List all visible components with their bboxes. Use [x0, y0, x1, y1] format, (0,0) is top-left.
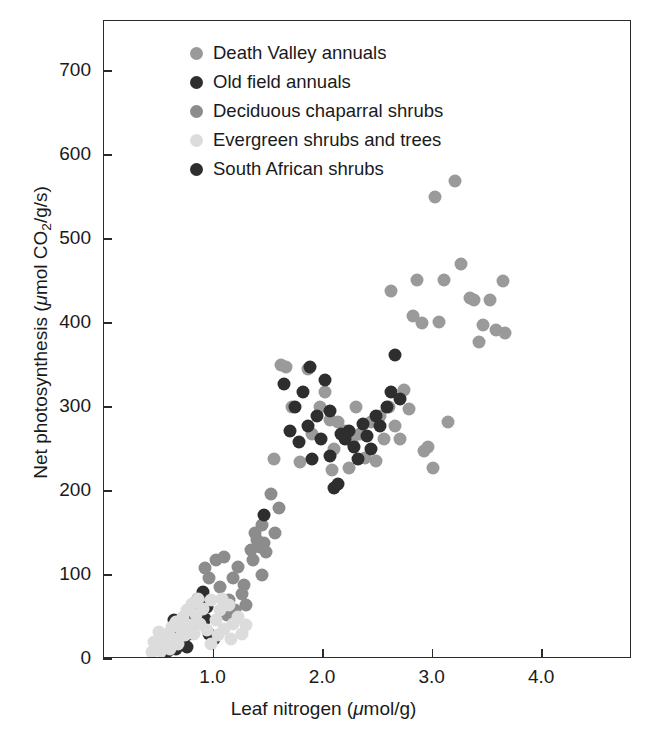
data-point [255, 569, 268, 582]
y-tick [103, 154, 112, 156]
legend-item-label: Deciduous chaparral shrubs [213, 102, 443, 121]
x-tick-label: 1.0 [199, 666, 225, 688]
data-point [433, 315, 446, 328]
data-point [310, 409, 323, 422]
y-axis-title: Net photosynthesis (μmol CO2/g/s) [30, 22, 55, 642]
data-point [349, 401, 362, 414]
data-point [216, 592, 229, 605]
data-point [422, 441, 435, 454]
data-point [385, 285, 398, 298]
data-point [496, 275, 509, 288]
data-point [378, 433, 391, 446]
y-tick [103, 322, 112, 324]
legend-item: Death Valley annuals [190, 42, 443, 64]
data-point [415, 317, 428, 330]
data-point [468, 293, 481, 306]
data-point [288, 401, 301, 414]
data-point [498, 327, 511, 340]
legend: Death Valley annualsOld field annualsDec… [190, 42, 443, 180]
data-point [277, 377, 290, 390]
legend-marker-icon [190, 105, 203, 118]
data-point [218, 550, 231, 563]
data-point [343, 424, 356, 437]
data-point [448, 174, 461, 187]
data-point [352, 453, 365, 466]
data-point [393, 392, 406, 405]
legend-item: Deciduous chaparral shrubs [190, 100, 443, 122]
legend-item-label: Death Valley annuals [213, 44, 386, 63]
x-tick-label: 3.0 [418, 666, 444, 688]
x-tick-label: 4.0 [528, 666, 554, 688]
data-point [389, 349, 402, 362]
data-point [231, 560, 244, 573]
data-point [148, 636, 161, 649]
data-point [294, 455, 307, 468]
data-point [279, 360, 292, 373]
data-point [323, 449, 336, 462]
data-point [303, 360, 316, 373]
y-tick [103, 406, 112, 408]
data-point [297, 386, 310, 399]
data-point [319, 386, 332, 399]
data-point [389, 419, 402, 432]
data-point [205, 637, 218, 650]
y-tick [103, 490, 112, 492]
data-point [238, 579, 251, 592]
data-point [306, 453, 319, 466]
data-point [323, 405, 336, 418]
data-point [268, 527, 281, 540]
y-tick [103, 70, 112, 72]
data-point [483, 293, 496, 306]
data-point [365, 443, 378, 456]
data-point [284, 424, 297, 437]
legend-marker-icon [190, 47, 203, 60]
legend-marker-icon [190, 76, 203, 89]
data-point [426, 461, 439, 474]
data-point [477, 318, 490, 331]
scatter-plot-figure: 1.02.03.04.0 0100200300400500600700 Leaf… [0, 0, 647, 736]
legend-marker-icon [190, 163, 203, 176]
data-point [225, 632, 238, 645]
data-point [292, 436, 305, 449]
data-point [455, 258, 468, 271]
data-point [369, 454, 382, 467]
legend-item-label: Old field annuals [213, 73, 351, 92]
y-tick-label: 0 [31, 647, 91, 669]
data-point [374, 419, 387, 432]
x-axis-title: Leaf nitrogen (μmol/g) [0, 698, 647, 720]
data-point [380, 401, 393, 414]
data-point [246, 553, 259, 566]
legend-item: Old field annuals [190, 71, 443, 93]
y-tick [103, 574, 112, 576]
legend-item-label: South African shrubs [213, 160, 384, 179]
data-point [411, 273, 424, 286]
legend-item: South African shrubs [190, 158, 443, 180]
legend-item-label: Evergreen shrubs and trees [213, 131, 441, 150]
x-tick [322, 649, 324, 658]
y-tick [103, 658, 112, 660]
data-point [402, 402, 415, 415]
data-point [240, 619, 253, 632]
data-point [257, 508, 270, 521]
legend-item: Evergreen shrubs and trees [190, 129, 443, 151]
x-tick [213, 649, 215, 658]
data-point [393, 433, 406, 446]
data-point [332, 478, 345, 491]
data-point [264, 488, 277, 501]
data-point [437, 273, 450, 286]
data-point [360, 429, 373, 442]
data-point [314, 433, 327, 446]
data-point [472, 335, 485, 348]
data-point [428, 191, 441, 204]
x-tick [432, 649, 434, 658]
y-tick [103, 238, 112, 240]
data-point [441, 416, 454, 429]
x-tick [541, 649, 543, 658]
data-point [267, 453, 280, 466]
data-point [325, 464, 338, 477]
data-point [260, 545, 273, 558]
data-point [273, 501, 286, 514]
x-tick-label: 2.0 [309, 666, 335, 688]
data-point [319, 374, 332, 387]
legend-marker-icon [190, 134, 203, 147]
